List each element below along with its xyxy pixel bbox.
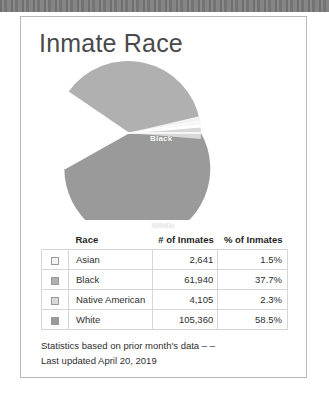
legend-swatch-black xyxy=(51,277,59,285)
table-row: Asian 2,641 1.5% xyxy=(42,250,288,270)
cell-count: 4,105 xyxy=(152,290,217,310)
footnote: Statistics based on prior month's data –… xyxy=(41,339,306,368)
legend-swatch-white xyxy=(51,317,59,325)
pie-label-white: White xyxy=(152,221,175,230)
pie-label-black: Black xyxy=(150,134,172,143)
cell-percent: 58.5% xyxy=(218,310,288,330)
table-row: Black 61,940 37.7% xyxy=(42,270,288,290)
race-table: Race # of Inmates % of Inmates Asian 2,6… xyxy=(41,234,288,330)
window-title-bar xyxy=(0,0,329,12)
table-row: Native American 4,105 2.3% xyxy=(42,290,288,310)
cell-race: Native American xyxy=(69,290,153,310)
table-row: White 105,360 58.5% xyxy=(42,310,288,330)
legend-swatch-asian xyxy=(51,257,59,265)
column-header-swatch xyxy=(42,234,69,250)
cell-race: White xyxy=(69,310,153,330)
table-header-row: Race # of Inmates % of Inmates xyxy=(42,234,288,250)
cell-percent: 1.5% xyxy=(218,250,288,270)
pie-slice-white xyxy=(64,133,210,220)
cell-percent: 37.7% xyxy=(218,270,288,290)
footnote-line-1: Statistics based on prior month's data –… xyxy=(41,339,306,354)
column-header-percent: % of Inmates xyxy=(218,234,288,250)
cell-count: 61,940 xyxy=(152,270,217,290)
legend-swatch-cell xyxy=(42,270,69,290)
inmate-race-card: Inmate Race Black White xyxy=(20,16,307,378)
pie-chart: Black White xyxy=(21,54,306,230)
legend-swatch-native-american xyxy=(51,297,59,305)
column-header-count: # of Inmates xyxy=(152,234,217,250)
column-header-race: Race xyxy=(69,234,153,250)
cell-count: 2,641 xyxy=(152,250,217,270)
race-table-wrap: Race # of Inmates % of Inmates Asian 2,6… xyxy=(41,234,288,330)
legend-swatch-cell xyxy=(42,250,69,270)
pie-chart-svg xyxy=(45,50,215,220)
cell-race: Asian xyxy=(69,250,153,270)
legend-swatch-cell xyxy=(42,310,69,330)
legend-swatch-cell xyxy=(42,290,69,310)
footnote-line-2: Last updated April 20, 2019 xyxy=(41,354,306,369)
cell-percent: 2.3% xyxy=(218,290,288,310)
cell-count: 105,360 xyxy=(152,310,217,330)
cell-race: Black xyxy=(69,270,153,290)
